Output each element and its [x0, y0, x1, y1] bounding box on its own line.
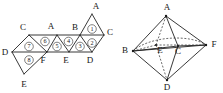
net-group: 1 2 3 4 5 [2, 1, 113, 89]
net-label-B: B [72, 22, 78, 32]
net-face-6: 6 [41, 37, 50, 46]
face-number-8: 8 [27, 56, 30, 63]
net-label-E-mid: E [63, 55, 69, 65]
oct-edge-A-E-hidden [156, 16, 166, 45]
oct-label-B: B [122, 45, 128, 55]
net-face-8: 8 [25, 56, 34, 65]
octahedron-group: A B E C F D [122, 2, 217, 92]
net-face-7: 7 [25, 42, 34, 51]
oct-edge-B-D [133, 51, 167, 80]
oct-label-A: A [164, 2, 171, 12]
figure-container: 1 2 3 4 5 [0, 0, 223, 93]
net-face-5: 5 [53, 42, 62, 51]
net-label-C-right: C [107, 27, 113, 37]
oct-dot-F [205, 44, 207, 46]
face-number-5: 5 [55, 42, 58, 49]
face-number-6: 6 [43, 37, 46, 44]
face-number-4: 4 [67, 37, 70, 44]
oct-label-D: D [164, 82, 171, 92]
net-label-D-left: D [2, 47, 9, 57]
net-label-D-right: D [87, 55, 94, 65]
net-label-A-mid: A [48, 21, 55, 31]
net-label-E-bot: E [21, 79, 27, 89]
oct-dot-D [166, 79, 168, 81]
net-face-2: 2 [88, 39, 97, 48]
oct-label-F: F [211, 39, 216, 49]
net-label-C-left: C [20, 22, 26, 32]
oct-dot-A [165, 15, 167, 17]
net-face-3: 3 [76, 42, 85, 51]
net-label-A-top: A [93, 1, 100, 11]
net-face-4: 4 [64, 37, 73, 46]
oct-label-E: E [157, 45, 163, 55]
net-edge-D-Ebot [12, 52, 24, 74]
figure-svg: 1 2 3 4 5 [0, 0, 223, 93]
face-number-2: 2 [90, 39, 93, 46]
face-number-1: 1 [90, 25, 93, 32]
oct-label-C: C [175, 46, 181, 56]
net-face-1: 1 [88, 25, 97, 34]
face-number-3: 3 [78, 42, 81, 49]
net-face-numbers: 1 2 3 4 5 [25, 25, 97, 65]
oct-dot-B [132, 50, 134, 52]
face-number-7: 7 [27, 42, 30, 49]
net-label-F: F [40, 55, 45, 65]
